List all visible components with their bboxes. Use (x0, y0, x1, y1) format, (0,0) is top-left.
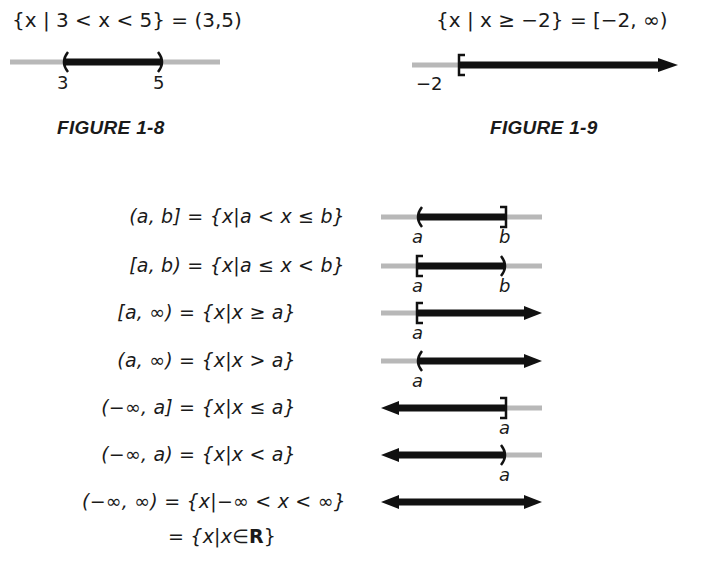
row-5-definition: (−∞, a] = {x|x ≤ a} (101, 396, 296, 418)
equals-sign: = (187, 205, 203, 227)
equals-sign: = (179, 443, 195, 465)
row-6-set: {x|x < a} (201, 443, 296, 465)
row-1-notation: (a, b] (129, 205, 181, 227)
row-5-number-line (381, 398, 542, 418)
row-2-number-line (381, 256, 542, 276)
arrow-right-icon (658, 58, 678, 72)
continuation-text: = {x|x∈ (168, 525, 249, 547)
equals-sign: = (179, 301, 195, 323)
row-6-definition: (−∞, a) = {x|x < a} (101, 443, 296, 465)
row-7-number-line (381, 495, 542, 509)
tick-label-3: 3 (57, 72, 68, 93)
row-4-definition: (a, ∞) = {x|x > a} (117, 349, 296, 371)
row-5-notation: (−∞, a] (101, 396, 173, 418)
row-7-notation: (−∞, ∞) (82, 490, 158, 512)
row-4-label-a: a (412, 370, 423, 391)
row-4-notation: (a, ∞) (117, 349, 173, 371)
row-6-notation: (−∞, a) (101, 443, 173, 465)
figure-1-9-number-line (412, 55, 678, 75)
figure-1-9-caption: FIGURE 1-9 (490, 117, 598, 139)
figure-1-8-number-line (10, 52, 220, 72)
row-4-set: {x|x > a} (201, 349, 296, 371)
figure-1-9-equation: {x | x ≥ −2} = [−2, ∞) (436, 8, 667, 32)
row-6-label-a: a (499, 464, 510, 485)
tick-label-5: 5 (153, 72, 164, 93)
row-3-label-a: a (412, 322, 423, 343)
row-5-label-a: a (499, 417, 510, 438)
row-2-label-a: a (412, 275, 423, 296)
reals-symbol: R (249, 525, 264, 547)
equals-sign: = (179, 396, 195, 418)
row-7-continuation: = {x|x∈R} (168, 525, 276, 547)
row-3-notation: [a, ∞) (117, 301, 173, 323)
closing-brace: } (264, 525, 276, 547)
row-7-set: {x|−∞ < x < ∞} (187, 490, 346, 512)
row-6-number-line (381, 445, 542, 465)
row-7-definition: (−∞, ∞) = {x|−∞ < x < ∞} (82, 490, 346, 512)
row-1-definition: (a, b] = {x|a < x ≤ b} (129, 205, 345, 227)
row-1-label-a: a (412, 226, 423, 247)
equals-sign: = (164, 490, 180, 512)
tick-label-minus-2: −2 (416, 73, 443, 94)
row-3-set: {x|x ≥ a} (201, 301, 296, 323)
figure-1-8-caption: FIGURE 1-8 (57, 117, 165, 139)
row-2-definition: [a, b) = {x|a ≤ x < b} (129, 254, 345, 276)
row-2-notation: [a, b) (129, 254, 181, 276)
row-3-number-line (381, 303, 542, 323)
equals-sign: = (179, 349, 195, 371)
row-1-set: {x|a < x ≤ b} (210, 205, 345, 227)
row-5-set: {x|x ≤ a} (201, 396, 296, 418)
row-1-number-line (381, 207, 542, 227)
row-3-definition: [a, ∞) = {x|x ≥ a} (117, 301, 296, 323)
row-1-label-b: b (499, 226, 510, 247)
row-4-number-line (381, 351, 542, 371)
equals-sign: = (187, 254, 203, 276)
row-2-set: {x|a ≤ x < b} (210, 254, 345, 276)
row-2-label-b: b (499, 275, 510, 296)
